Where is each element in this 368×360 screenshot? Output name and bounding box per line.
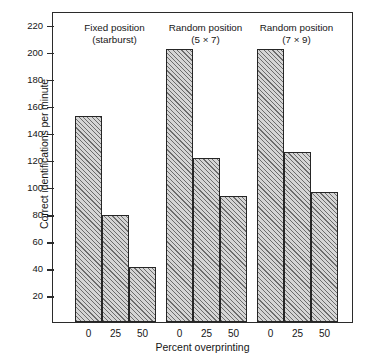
x-tick-label: 0 xyxy=(75,328,103,339)
bar xyxy=(75,116,102,322)
y-tick-mark xyxy=(47,242,54,243)
y-tick-mark xyxy=(47,269,54,270)
group-heading-line2: (7 × 9) xyxy=(226,34,367,46)
x-tick-label: 25 xyxy=(284,328,312,339)
x-tick-label: 50 xyxy=(220,328,248,339)
y-tick-mark xyxy=(47,134,54,135)
bar xyxy=(102,215,129,322)
x-tick-label: 25 xyxy=(102,328,130,339)
y-tick-label: 60 xyxy=(19,236,43,247)
group-heading-line1: Random position xyxy=(226,22,367,34)
y-tick-label: 100 xyxy=(19,182,43,193)
x-tick-label: 50 xyxy=(129,328,157,339)
y-tick-label: 200 xyxy=(19,47,43,58)
bar-chart-figure: Correct identifications per minute 20406… xyxy=(0,0,368,360)
bars-layer xyxy=(53,13,352,322)
x-axis-title: Percent overprinting xyxy=(52,341,353,353)
y-tick-label: 20 xyxy=(19,290,43,301)
bar xyxy=(257,49,284,322)
x-tick-label: 0 xyxy=(257,328,285,339)
bar xyxy=(193,158,220,322)
y-tick-label: 120 xyxy=(19,155,43,166)
y-tick-mark xyxy=(47,161,54,162)
y-tick-label: 140 xyxy=(19,128,43,139)
y-tick-mark xyxy=(47,80,54,81)
y-tick-label: 180 xyxy=(19,74,43,85)
plot-area: 2040608010012014016018020022002550025500… xyxy=(52,12,353,323)
bar xyxy=(284,152,311,322)
x-tick-label: 25 xyxy=(193,328,221,339)
bar xyxy=(220,196,247,322)
bar xyxy=(166,49,193,322)
bar xyxy=(311,192,338,322)
y-tick-label: 160 xyxy=(19,101,43,112)
x-tick-label: 0 xyxy=(166,328,194,339)
bar xyxy=(129,267,156,322)
y-tick-mark xyxy=(47,296,54,297)
y-tick-mark xyxy=(47,53,54,54)
y-tick-mark xyxy=(47,215,54,216)
group-heading: Random position(7 × 9) xyxy=(226,22,367,45)
y-tick-mark xyxy=(47,188,54,189)
y-tick-label: 220 xyxy=(19,20,43,31)
y-tick-mark xyxy=(47,107,54,108)
y-tick-label: 40 xyxy=(19,263,43,274)
y-tick-label: 80 xyxy=(19,209,43,220)
x-tick-label: 50 xyxy=(311,328,339,339)
